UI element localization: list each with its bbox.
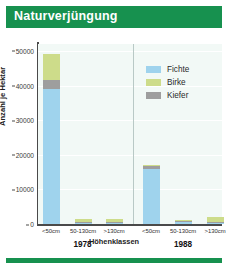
y-tick-mark (26, 224, 29, 225)
y-tick-mark (12, 155, 15, 156)
y-tick-label: 0 (30, 221, 34, 228)
x-group-label-1988: 1988 (174, 240, 192, 249)
x-tick-label: 50-130cm (170, 228, 196, 234)
x-tick-label: >130cm (204, 228, 225, 234)
x-tick-label: <50cm (42, 228, 60, 234)
bar-1988-50-130cm[interactable] (175, 220, 192, 224)
legend-label-birke: Birke (167, 78, 186, 87)
x-axis-line (37, 224, 222, 226)
y-tick-mark (12, 51, 15, 52)
x-tick-label: <50cm (142, 228, 160, 234)
legend-item-kiefer: Kiefer (146, 90, 189, 101)
footer-bar (6, 258, 222, 263)
bar-1978-<50cm[interactable] (43, 54, 60, 224)
bar-segment-fichte (43, 89, 60, 224)
y-tick-label: 50000 (16, 47, 34, 54)
y-tick-mark (12, 86, 15, 87)
bar-segment-kiefer (43, 80, 60, 89)
legend-swatch-kiefer (146, 92, 161, 99)
legend-item-birke: Birke (146, 77, 189, 88)
x-axis-title: Höhenklassen (89, 237, 139, 246)
bar-segment-fichte (207, 223, 224, 224)
legend-label-kiefer: Kiefer (167, 91, 188, 100)
legend-item-fichte: Fichte (146, 64, 189, 75)
bar-1988-<50cm[interactable] (143, 165, 160, 224)
y-tick-label: 40000 (16, 82, 34, 89)
bar-segment-fichte (106, 223, 123, 224)
legend-label-fichte: Fichte (167, 65, 189, 74)
bar-1978-50-130cm[interactable] (75, 219, 92, 224)
plot-area: 01000020000300004000050000 (38, 44, 222, 224)
bar-segment-birke (43, 54, 60, 80)
y-tick-mark (12, 189, 15, 190)
page-title: Naturverjüngung (14, 9, 118, 23)
legend-swatch-birke (146, 79, 161, 86)
legend-swatch-fichte (146, 66, 161, 73)
bar-segment-fichte (75, 223, 92, 224)
bar-1978->130cm[interactable] (106, 219, 123, 224)
bar-series (38, 44, 222, 224)
y-tick-label: 30000 (16, 117, 34, 124)
y-tick-mark (12, 120, 15, 121)
bar-segment-fichte (143, 169, 160, 224)
chart-area: Anzahl je Hektar 01000020000300004000050… (0, 30, 228, 256)
y-axis-title: Anzahl je Hektar (0, 67, 7, 126)
bar-1988->130cm[interactable] (207, 217, 224, 224)
x-tick-label: 50-130cm (70, 228, 96, 234)
y-tick-label: 20000 (16, 151, 34, 158)
group-divider (133, 44, 134, 224)
chart-legend: Fichte Birke Kiefer (146, 64, 189, 103)
bar-segment-fichte (175, 222, 192, 224)
chart-page: Naturverjüngung Anzahl je Hektar 0100002… (0, 0, 228, 270)
x-tick-label: >130cm (103, 228, 124, 234)
y-tick-label: 10000 (16, 186, 34, 193)
